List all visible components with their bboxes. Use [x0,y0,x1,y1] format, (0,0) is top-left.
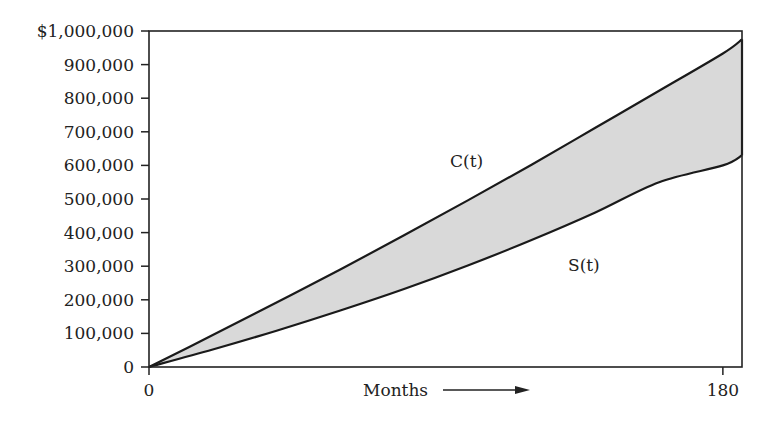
y-tick-label: 600,000 [64,155,134,175]
shaded-region [149,39,742,367]
curve-c [149,39,742,367]
y-tick-label: 200,000 [64,290,134,310]
x-tick-label: 0 [144,380,155,400]
y-tick-label: 500,000 [64,189,134,209]
y-tick-label: 300,000 [64,256,134,276]
y-tick-label: 700,000 [64,122,134,142]
x-axis-label: Months [363,380,428,400]
y-tick-label: 400,000 [64,223,134,243]
curve-label-c: C(t) [450,151,483,171]
plot-frame [149,31,742,367]
y-tick-label: 800,000 [64,88,134,108]
arrow-right-icon [443,386,530,394]
curve-label-s: S(t) [568,255,600,275]
y-tick-label: 900,000 [64,55,134,75]
chart: 0100,000200,000300,000400,000500,000600,… [0,0,783,422]
y-tick-label: $1,000,000 [37,21,134,41]
x-tick-label: 180 [707,380,739,400]
y-tick-label: 0 [123,357,134,377]
y-axis: 0100,000200,000300,000400,000500,000600,… [37,21,149,377]
shaded-area [149,39,742,367]
curves [149,39,742,367]
x-axis: 0180 [144,367,740,400]
y-tick-label: 100,000 [64,323,134,343]
